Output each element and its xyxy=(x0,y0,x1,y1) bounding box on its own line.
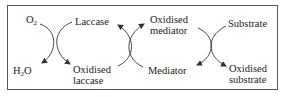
arrow-substrate-to-oxidised-substrate xyxy=(211,26,226,66)
arrow-oxidised-laccase-to-laccase xyxy=(118,25,132,66)
label-substrate: Substrate xyxy=(228,18,267,29)
reaction-3-arrows xyxy=(197,26,226,66)
arrow-laccase-to-oxidised-laccase xyxy=(57,22,72,64)
reaction-1-arrows xyxy=(40,22,72,64)
label-o2: O2 xyxy=(26,14,37,25)
label-mediator: Mediator xyxy=(148,65,187,76)
label-oxidised-mediator: Oxidised mediator xyxy=(150,14,188,36)
label-laccase: Laccase xyxy=(75,16,109,27)
label-oxidised-laccase: Oxidised laccase xyxy=(73,64,111,86)
arrow-oxidised-mediator-to-mediator xyxy=(197,28,211,65)
label-oxidised-substrate: Oxidised substrate xyxy=(229,63,267,85)
arrow-o2-to-h2o xyxy=(40,24,54,63)
label-h2o: H2O xyxy=(13,65,32,76)
reaction-2-arrows xyxy=(118,24,144,67)
